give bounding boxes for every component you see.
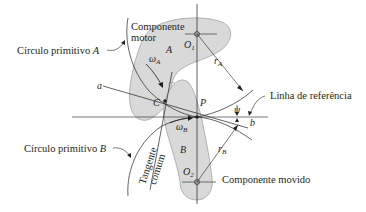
label-pitch-circle-a: Círculo primitivo A: [17, 45, 100, 56]
psi-arrow-bottom: [235, 118, 239, 122]
label-reference-line: Linha de referência: [270, 90, 352, 101]
radius-b-arrowhead: [233, 125, 238, 131]
symbol-r-a: rA: [214, 55, 223, 68]
contact-point-c: [163, 99, 167, 103]
leader-reference-line: [250, 96, 265, 114]
leader-pitch-circle-b: [113, 148, 130, 156]
radius-a-arrowhead: [237, 85, 243, 91]
leader-reference-line-arrow: [248, 111, 252, 116]
cam-contact-diagram: Componente motor Círculo primitivo A Cír…: [0, 0, 366, 212]
label-driven-component: Componente movido: [222, 174, 310, 185]
leader-pitch-circle-b-arrow: [127, 153, 131, 158]
symbol-body-a: A: [165, 44, 173, 55]
leader-pitch-circle-a-arrow: [121, 40, 125, 45]
symbol-c: C: [153, 97, 160, 108]
symbol-body-b: B: [180, 144, 186, 155]
symbol-a: a: [97, 80, 102, 91]
symbol-p: P: [199, 97, 206, 108]
leader-pitch-circle-a: [107, 42, 124, 51]
label-pitch-circle-b: Círculo primitivo B: [24, 143, 107, 154]
label-driver-component: Componente: [131, 21, 185, 32]
pitch-point-p: [195, 115, 199, 119]
symbol-psi: ψ: [234, 104, 241, 115]
symbol-b: b: [250, 117, 255, 128]
label-driver-component-2: motor: [131, 32, 157, 43]
symbol-r-b: rB: [218, 143, 227, 156]
